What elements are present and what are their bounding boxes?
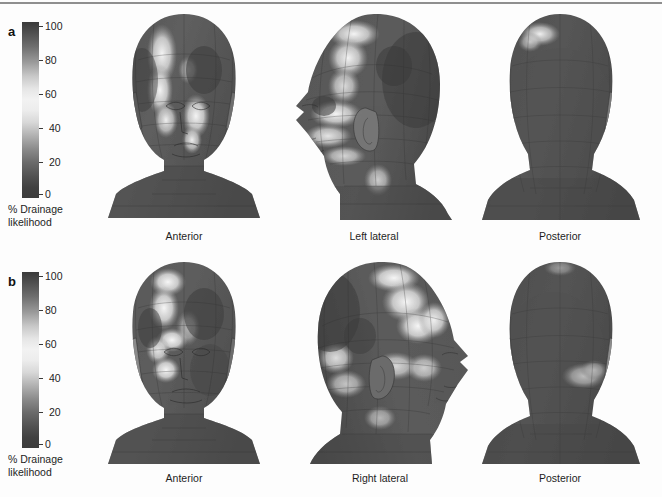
head-render-a-posterior	[468, 8, 653, 226]
panel-b: b 100 80 60 40 20 0 % Drainage likelihoo…	[0, 258, 662, 497]
head-surface	[282, 258, 477, 468]
tick-dash	[39, 344, 43, 345]
colorbar-tick-label: 40	[49, 373, 61, 384]
tick-dash	[39, 194, 43, 195]
tick-dash	[39, 162, 43, 163]
colorbar-tick-label: 80	[45, 305, 57, 316]
colorbar-caption-line2: likelihood	[8, 216, 100, 229]
head-surface	[92, 258, 277, 468]
head-render-a-anterior	[92, 8, 277, 226]
tick-dash	[39, 378, 43, 379]
colorbar-caption-a: % Drainage likelihood	[8, 203, 100, 228]
view-caption-a-left-lateral: Left lateral	[294, 230, 454, 242]
colorbar-ticks-a: 100 80 60 40 20 0	[39, 22, 79, 198]
head-render-b-posterior	[468, 258, 653, 468]
view-caption-a-posterior: Posterior	[480, 230, 640, 242]
view-a-left-lateral: Left lateral	[282, 8, 467, 226]
colorbar-ticks-b: 100 80 60 40 20 0	[39, 272, 79, 448]
head-surface	[92, 8, 277, 226]
view-b-posterior: Posterior	[468, 258, 653, 468]
colorbar-tick-label: 0	[45, 439, 51, 450]
head-render-a-left-lateral	[282, 8, 467, 226]
view-b-anterior: Anterior	[92, 258, 277, 468]
view-caption-b-right-lateral: Right lateral	[300, 472, 460, 484]
colorbar-a: 100 80 60 40 20 0 % Drainage likelihood	[22, 22, 39, 198]
colorbar-caption-line1: % Drainage	[8, 453, 100, 466]
view-caption-b-anterior: Anterior	[104, 472, 264, 484]
view-a-posterior: Posterior	[468, 8, 653, 226]
top-rule	[0, 2, 662, 4]
colorbar-caption-b: % Drainage likelihood	[8, 453, 100, 478]
tick-dash	[39, 276, 43, 277]
tick-dash	[39, 60, 43, 61]
colorbar-caption-line1: % Drainage	[8, 203, 100, 216]
colorbar-tick-label: 60	[45, 339, 57, 350]
panel-letter-a: a	[8, 24, 15, 39]
view-caption-a-anterior: Anterior	[104, 230, 264, 242]
view-caption-b-posterior: Posterior	[480, 472, 640, 484]
head-surface	[282, 8, 467, 226]
tick-dash	[39, 310, 43, 311]
colorbar-tick-label: 40	[49, 123, 61, 134]
colorbar-tick-label: 100	[45, 21, 63, 32]
colorbar-tick-label: 0	[45, 189, 51, 200]
head-surface	[468, 258, 653, 468]
colorbar-gradient-b	[22, 272, 39, 448]
colorbar-b: 100 80 60 40 20 0 % Drainage likelihood	[22, 272, 39, 448]
colorbar-tick-label: 20	[49, 407, 61, 418]
panel-letter-b: b	[8, 274, 16, 289]
view-b-right-lateral: Right lateral	[282, 258, 477, 468]
tick-dash	[39, 128, 43, 129]
tick-dash	[39, 26, 43, 27]
tick-dash	[39, 94, 43, 95]
colorbar-tick-label: 100	[45, 271, 63, 282]
colorbar-tick-label: 60	[45, 89, 57, 100]
panel-a: a 100 80 60 40 20 0 % Drainage likelihoo…	[0, 8, 662, 253]
tick-dash	[39, 412, 43, 413]
figure-canvas: a 100 80 60 40 20 0 % Drainage likelihoo…	[0, 0, 662, 497]
view-a-anterior: Anterior	[92, 8, 277, 226]
colorbar-tick-label: 80	[45, 55, 57, 66]
colorbar-caption-line2: likelihood	[8, 466, 100, 479]
head-render-b-anterior	[92, 258, 277, 468]
head-render-b-right-lateral	[282, 258, 477, 468]
colorbar-gradient-a	[22, 22, 39, 198]
colorbar-tick-label: 20	[49, 157, 61, 168]
tick-dash	[39, 444, 43, 445]
head-surface	[468, 8, 653, 226]
